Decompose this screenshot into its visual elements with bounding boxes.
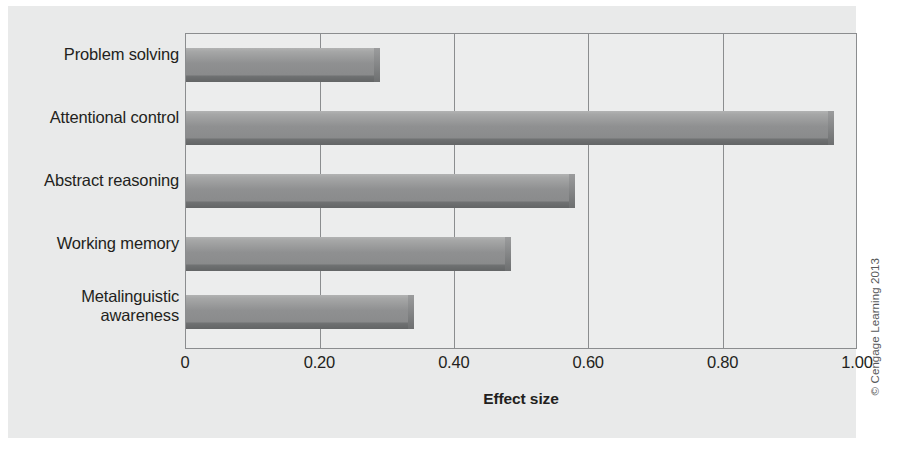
bar-metalinguistic-awareness (186, 295, 408, 329)
category-label-text: Working memory (57, 234, 179, 252)
bar-problem-solving (186, 48, 374, 82)
gridline-0.60 (588, 34, 589, 348)
figure-container: Problem solving Attentional control Abst… (0, 0, 912, 452)
x-tick-label-0: 0 (181, 353, 190, 372)
category-label-text-line2: awareness (101, 306, 179, 324)
bar-wrap (186, 111, 834, 145)
gridline-0.80 (723, 34, 724, 348)
bar-wrap (186, 295, 414, 329)
category-label-text-line1: Metalinguistic (81, 287, 179, 305)
category-axis-labels: Problem solving Attentional control Abst… (5, 33, 179, 349)
bar-wrap (186, 48, 380, 82)
category-label-text: Problem solving (64, 45, 179, 63)
x-tick-label-0.60: 0.60 (573, 353, 604, 372)
x-axis-title: Effect size (185, 390, 857, 408)
category-label-metalinguistic-awareness: Metalinguistic awareness (9, 287, 179, 325)
bar-cap (374, 48, 380, 82)
bar-attentional-control (186, 111, 828, 145)
x-tick-label-0.20: 0.20 (304, 353, 335, 372)
bar-abstract-reasoning (186, 174, 569, 208)
category-label-text: Abstract reasoning (44, 171, 179, 189)
category-label-attentional-control: Attentional control (9, 108, 179, 127)
x-tick-label-0.80: 0.80 (707, 353, 738, 372)
bar-working-memory (186, 237, 505, 271)
category-label-abstract-reasoning: Abstract reasoning (9, 171, 179, 190)
bar-wrap (186, 174, 575, 208)
copyright-credit: © Cengage Learning 2013 (869, 258, 881, 395)
category-label-working-memory: Working memory (9, 234, 179, 253)
x-axis-tick-labels: 00.200.400.600.801.00 (0, 353, 912, 379)
category-label-text: Attentional control (50, 108, 179, 126)
x-tick-label-1.00: 1.00 (841, 353, 872, 372)
bar-wrap (186, 237, 511, 271)
bar-cap (569, 174, 575, 208)
bar-cap (828, 111, 834, 145)
category-label-problem-solving: Problem solving (9, 45, 179, 64)
bar-cap (505, 237, 511, 271)
bar-cap (408, 295, 414, 329)
plot-area (185, 33, 857, 349)
x-tick-label-0.40: 0.40 (438, 353, 469, 372)
